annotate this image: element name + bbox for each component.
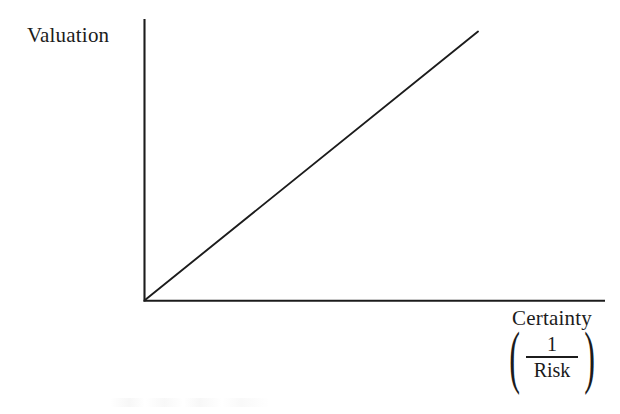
fraction-denominator: Risk <box>530 358 575 381</box>
data-line-valuation-vs-certainty <box>145 32 478 301</box>
x-axis-label-group: Certainty ( 1 Risk ) <box>497 306 607 381</box>
fraction-one-over-risk: 1 Risk <box>526 333 578 381</box>
fraction-numerator: 1 <box>541 333 563 356</box>
x-axis-sublabel-fraction: ( 1 Risk ) <box>497 333 607 381</box>
left-parenthesis-glyph: ( <box>509 322 520 392</box>
right-parenthesis-glyph: ) <box>584 322 595 392</box>
figure-canvas: Valuation Certainty ( 1 Risk ) <box>0 0 620 414</box>
y-axis-label: Valuation <box>27 23 109 48</box>
